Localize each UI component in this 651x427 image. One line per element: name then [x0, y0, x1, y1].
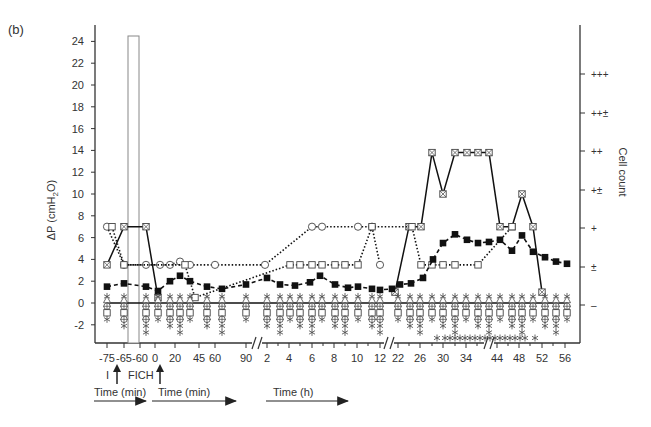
y-tick-label: 10 — [72, 188, 84, 200]
x-tick-label: -65 — [116, 352, 132, 364]
series-solid-crossed-square-late — [392, 149, 545, 295]
infusion-rectangle — [128, 36, 139, 343]
baseline-marker-stack — [331, 293, 339, 329]
x-tick-label: 10 — [351, 352, 363, 364]
baseline-marker-stack — [142, 293, 150, 336]
y2-tick-label: – — [591, 300, 597, 311]
time-h-label: Time (h) — [273, 386, 314, 398]
baseline-marker-stack — [508, 293, 516, 329]
x-tick-label: 26 — [414, 352, 426, 364]
baseline-marker-stack — [394, 293, 402, 323]
y-tick-label: 16 — [72, 123, 84, 135]
baseline-marker-stack — [218, 293, 226, 336]
baseline-marker-stack — [518, 293, 526, 336]
baseline-marker-stack — [485, 293, 493, 336]
annotation-fich: FICH — [128, 369, 154, 381]
baseline-marker-stack — [203, 293, 211, 329]
y2-tick-label: ++ — [591, 146, 603, 157]
baseline-marker-stack — [541, 293, 549, 329]
x-tick-label: 44 — [491, 352, 503, 364]
baseline-marker-stack — [242, 293, 250, 323]
baseline-marker-stack — [368, 293, 376, 329]
annotation-i: I — [106, 369, 109, 381]
baseline-marker-stack — [286, 293, 294, 323]
y2-tick-label: +++ — [591, 69, 609, 80]
y-tick-label: 22 — [72, 57, 84, 69]
baseline-marker-stack — [496, 293, 504, 323]
y-tick-label: -2 — [74, 319, 84, 331]
y-tick-label: 8 — [78, 210, 84, 222]
baseline-marker-stack — [276, 293, 284, 336]
chart: (b) -2024681012141618202224 +++++±+++±+±… — [0, 0, 651, 427]
x-tick-label: 20 — [169, 352, 181, 364]
baseline-marker-stack — [416, 293, 424, 336]
data-series — [103, 149, 570, 303]
baseline-marker-stack — [318, 293, 326, 323]
time-min-label-1: Time (min) — [94, 386, 146, 398]
y2-tick-label: + — [591, 223, 597, 234]
baseline-marker-stack — [406, 293, 414, 329]
baseline-marker-stack — [354, 293, 362, 323]
x-tick-label: 34 — [460, 352, 472, 364]
y-tick-label: 4 — [78, 253, 84, 265]
x-tick-label: 12 — [374, 352, 386, 364]
time-min-label-2: Time (min) — [158, 386, 210, 398]
x-tick-label: -60 — [132, 352, 148, 364]
x-tick-label: 45 — [193, 352, 205, 364]
y-axis-label: ΔP (cmH2O) — [45, 180, 60, 241]
y2-tick-label: ± — [591, 262, 597, 273]
x-tick-label: 6 — [309, 352, 315, 364]
y-tick-label: 24 — [72, 35, 84, 47]
x-tick-label: 56 — [559, 352, 571, 364]
baseline-marker-stack — [552, 293, 560, 336]
baseline-marker-stack — [428, 293, 436, 323]
x-tick-label: 90 — [240, 352, 252, 364]
baseline-marker-stack — [308, 293, 316, 336]
x-tick-label: 22 — [392, 352, 404, 364]
x-tick-label: 0 — [152, 352, 158, 364]
baseline-marker-stack — [376, 293, 384, 336]
y-axis-ticks: -2024681012141618202224 — [72, 35, 95, 330]
y-tick-label: 14 — [72, 144, 84, 156]
x-tick-label: -75 — [99, 352, 115, 364]
baseline-marker-stack — [462, 293, 470, 323]
x-tick-label: 8 — [331, 352, 337, 364]
baseline-marker-stack — [474, 293, 482, 329]
baseline-markers — [103, 293, 571, 336]
x-tick-label: 48 — [513, 352, 525, 364]
x-tick-label: 30 — [437, 352, 449, 364]
y2-tick-label: +± — [591, 185, 603, 196]
y2-axis-label: Cell count — [617, 148, 629, 197]
y-tick-label: 12 — [72, 166, 84, 178]
y-tick-label: 0 — [78, 297, 84, 309]
baseline-marker-stack — [166, 293, 174, 329]
baseline-marker-stack — [439, 293, 447, 329]
panel-label: (b) — [8, 22, 24, 37]
baseline-marker-stack — [263, 293, 271, 329]
baseline-marker-stack — [451, 293, 459, 336]
baseline-marker-stack — [120, 293, 128, 329]
x-tick-label: 60 — [209, 352, 221, 364]
baseline-marker-stack — [296, 293, 304, 329]
y-tick-label: 6 — [78, 232, 84, 244]
y-tick-label: 2 — [78, 275, 84, 287]
y-tick-label: 18 — [72, 101, 84, 113]
baseline-marker-stack — [103, 293, 111, 323]
x-tick-label: 2 — [264, 352, 270, 364]
y2-axis-ticks: +++++±+++±+±– — [580, 69, 609, 311]
x-tick-label: 52 — [536, 352, 548, 364]
y2-tick-label: ++± — [591, 108, 609, 119]
baseline-marker-stack — [176, 293, 184, 336]
baseline-marker-stack — [341, 293, 349, 336]
baseline-marker-stack — [563, 293, 571, 323]
x-tick-label: 4 — [286, 352, 292, 364]
baseline-marker-stack — [529, 293, 537, 323]
y-tick-label: 20 — [72, 79, 84, 91]
